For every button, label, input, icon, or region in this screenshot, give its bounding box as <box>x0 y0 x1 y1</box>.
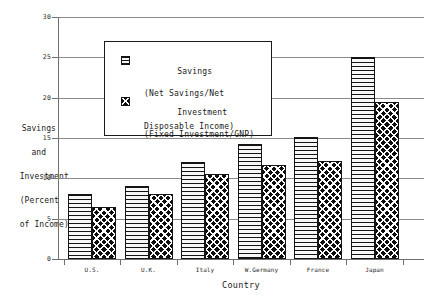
legend-investment-text: Investment (Fixed Investment/GNP) <box>137 96 254 162</box>
legend-savings-label: Savings <box>177 67 212 76</box>
y-axis-title-line-1: Savings <box>22 124 56 133</box>
y-axis-tick-label: 10 <box>43 175 51 182</box>
bar-savings-france <box>294 137 318 259</box>
legend-entry-investment: Investment (Fixed Investment/GNP) <box>121 96 254 162</box>
y-axis-tick-label: 20 <box>43 95 51 102</box>
bar-savings-uk <box>125 186 149 259</box>
x-axis-tick <box>233 259 234 265</box>
x-axis-line <box>58 259 424 260</box>
x-axis-tick <box>290 259 291 265</box>
x-axis-tick <box>64 259 65 265</box>
bar-investment-uk <box>149 194 173 259</box>
y-axis-tick <box>52 219 58 220</box>
bar-savings-italy <box>181 162 205 259</box>
y-axis-tick <box>52 259 58 260</box>
bar-investment-japan <box>375 102 399 259</box>
x-axis-category-label: W.Germany <box>245 266 278 273</box>
investment-swatch-icon <box>121 97 130 106</box>
x-axis-tick <box>403 259 404 265</box>
y-axis-tick-label: 0 <box>47 256 51 263</box>
y-axis-tick <box>52 178 58 179</box>
gridline <box>58 17 424 18</box>
x-axis-tick <box>346 259 347 265</box>
x-axis-category-label: U.S. <box>85 266 100 273</box>
bar-savings-us <box>68 194 92 259</box>
y-axis-title-line-4: (Percent <box>20 196 59 205</box>
savings-swatch-icon <box>121 56 130 65</box>
x-axis-title: Country <box>58 280 424 290</box>
bar-savings-japan <box>351 57 375 259</box>
y-axis-tick-label: 25 <box>43 54 51 61</box>
x-axis-category-label: Italy <box>196 266 215 273</box>
y-axis-tick <box>52 98 58 99</box>
legend-investment-label: Investment <box>177 108 227 117</box>
legend-investment-sub-1: (Fixed Investment/GNP) <box>137 129 254 140</box>
x-axis-tick <box>120 259 121 265</box>
chart-legend: Savings (Net Savings/Net Disposable Inco… <box>104 41 272 136</box>
bar-investment-wgermany <box>262 165 286 259</box>
bar-chart: Savings and Investment (Percent of Incom… <box>0 0 434 301</box>
y-axis-tick-label: 15 <box>43 135 51 142</box>
x-axis-tick <box>177 259 178 265</box>
y-axis-tick-label: 5 <box>47 216 51 223</box>
y-axis-tick-label: 30 <box>43 14 51 21</box>
bar-investment-italy <box>205 174 229 259</box>
y-axis-tick <box>52 17 58 18</box>
y-axis-tick <box>52 57 58 58</box>
y-axis-tick <box>52 138 58 139</box>
x-axis-category-label: U.K. <box>141 266 156 273</box>
x-axis-category-label: France <box>307 266 329 273</box>
bar-investment-us <box>92 207 116 259</box>
y-axis-title-line-2: and <box>31 148 46 157</box>
bar-investment-france <box>318 161 342 259</box>
x-axis-category-label: Japan <box>365 266 384 273</box>
